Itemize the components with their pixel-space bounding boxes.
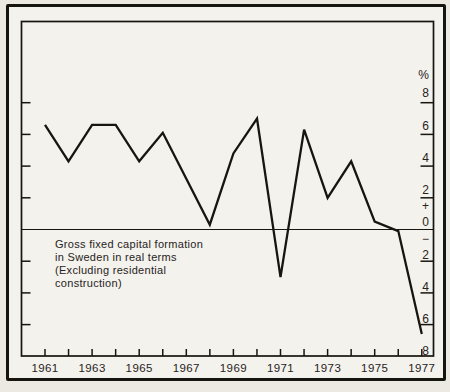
y-axis-tick-label: 8 [422, 86, 429, 100]
y-axis-tick-label: 2 [422, 183, 429, 197]
y-axis-tick-label: 2 [422, 248, 429, 262]
y-axis-tick-label: 4 [422, 280, 429, 294]
capital-formation-line-chart: 196119631965196719691971197319751977%864… [0, 0, 450, 392]
y-axis-tick-label: 4 [422, 151, 429, 165]
y-axis-tick-label: 8 [422, 344, 429, 358]
plot-border [22, 22, 434, 357]
x-axis-tick-label: 1971 [267, 362, 294, 374]
x-axis-tick-label: 1973 [314, 362, 341, 374]
y-axis-tick-label: 6 [422, 312, 429, 326]
y-axis-tick-label: 6 [422, 119, 429, 133]
x-axis-tick-label: 1967 [173, 362, 200, 374]
x-axis-tick-label: 1965 [126, 362, 153, 374]
x-axis-tick-label: 1975 [361, 362, 388, 374]
y-axis-tick-label: + [422, 199, 429, 213]
scanned-page: 196119631965196719691971197319751977%864… [0, 0, 450, 392]
x-axis-tick-label: 1963 [79, 362, 106, 374]
y-axis-tick-label: 0 [422, 215, 429, 229]
x-axis-tick-label: 1969 [220, 362, 247, 374]
y-axis-tick-label: − [422, 232, 429, 246]
data-line-capital-formation [45, 119, 422, 335]
y-axis-unit-label: % [418, 68, 429, 82]
x-axis-tick-label: 1961 [31, 362, 58, 374]
x-axis-tick-label: 1977 [408, 362, 435, 374]
chart-caption: Gross fixed capital formation in Sweden … [55, 238, 225, 290]
